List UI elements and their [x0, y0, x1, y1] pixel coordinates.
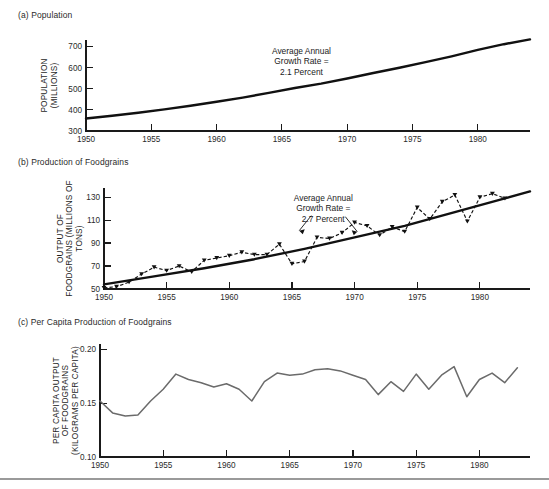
- y-axis-title-line: (KILOGRAMS PER CAPITA): [71, 346, 80, 455]
- x-tick-label: 1980: [469, 135, 488, 144]
- series-line: [100, 367, 517, 417]
- annotation-line: Growth Rate =: [274, 56, 328, 66]
- x-tick-label: 1950: [77, 135, 96, 144]
- x-tick-label: 1970: [344, 461, 363, 470]
- annotation-line: 2.1 Percent: [280, 67, 324, 77]
- x-tick-label: 1960: [207, 135, 226, 144]
- data-point-marker: [164, 269, 169, 273]
- x-tick-label: 1950: [95, 293, 114, 302]
- y-tick-label: 0.20: [80, 345, 96, 354]
- x-tick-label: 1980: [470, 461, 489, 470]
- y-tick-label: 110: [87, 216, 100, 225]
- charts-canvas: 3004005006007001950195519601965197019751…: [0, 0, 549, 489]
- y-axis-title-line: TONS): [75, 225, 84, 251]
- figure-page: (a) Population (b) Production of Foodgra…: [0, 0, 549, 489]
- data-point-marker: [402, 230, 407, 234]
- data-point-marker: [465, 219, 470, 223]
- y-tick-label: 400: [68, 106, 82, 115]
- data-point-marker: [477, 195, 482, 199]
- y-axis-title-line: (MILLIONS): [50, 63, 59, 109]
- x-tick-label: 1955: [154, 461, 173, 470]
- y-tick-label: 600: [68, 64, 82, 73]
- y-tick-label: 90: [91, 239, 101, 248]
- chart-foodgrain-production: 5070901101301950195519601965197019751980…: [56, 180, 531, 302]
- y-tick-label: 700: [68, 42, 82, 51]
- x-tick-label: 1965: [273, 135, 292, 144]
- data-point-marker: [377, 233, 382, 237]
- x-tick-label: 1965: [281, 461, 300, 470]
- y-axis-title-line: OF FOODGRAINS: [61, 365, 70, 437]
- x-tick-label: 1970: [345, 293, 364, 302]
- y-axis-title-line: PER CAPITA OUTPUT: [52, 357, 61, 444]
- data-point-marker: [227, 254, 232, 258]
- data-point-marker: [452, 193, 457, 197]
- x-tick-label: 1960: [220, 293, 239, 302]
- chart-per-capita-foodgrain: 0.100.150.201950195519601965197019751980…: [52, 344, 531, 470]
- annotation-line: Growth Rate =: [296, 203, 350, 213]
- y-tick-label: 70: [91, 262, 101, 271]
- x-tick-label: 1975: [407, 461, 426, 470]
- data-point-marker: [340, 231, 345, 235]
- y-axis-title-line: FOODGRAINS (MILLIONS OF: [65, 180, 74, 297]
- x-tick-label: 1980: [471, 293, 490, 302]
- data-point-marker: [315, 235, 320, 239]
- annotation-line: Average Annual: [294, 193, 353, 203]
- y-axis-title-line: POPULATION: [40, 58, 49, 112]
- annotation-line: Average Annual: [272, 46, 331, 56]
- axis-lines: [100, 344, 530, 457]
- y-tick-label: 0.15: [80, 399, 96, 408]
- y-tick-label: 500: [68, 85, 82, 94]
- x-tick-label: 1955: [158, 293, 177, 302]
- x-tick-label: 1955: [142, 135, 161, 144]
- data-point-marker: [202, 258, 207, 262]
- data-point-marker: [189, 270, 194, 274]
- y-tick-label: 130: [86, 193, 100, 202]
- x-tick-label: 1960: [217, 461, 236, 470]
- x-tick-label: 1975: [403, 135, 422, 144]
- x-tick-label: 1965: [283, 293, 302, 302]
- data-point-marker: [114, 285, 119, 289]
- x-tick-label: 1950: [91, 461, 110, 470]
- chart-population: 3004005006007001950195519601965197019751…: [40, 39, 530, 144]
- x-tick-label: 1975: [408, 293, 427, 302]
- data-point-marker: [415, 206, 420, 210]
- y-axis-title-line: OUTPUT OF: [56, 214, 65, 263]
- footer-divider: [0, 478, 549, 480]
- x-tick-label: 1970: [338, 135, 357, 144]
